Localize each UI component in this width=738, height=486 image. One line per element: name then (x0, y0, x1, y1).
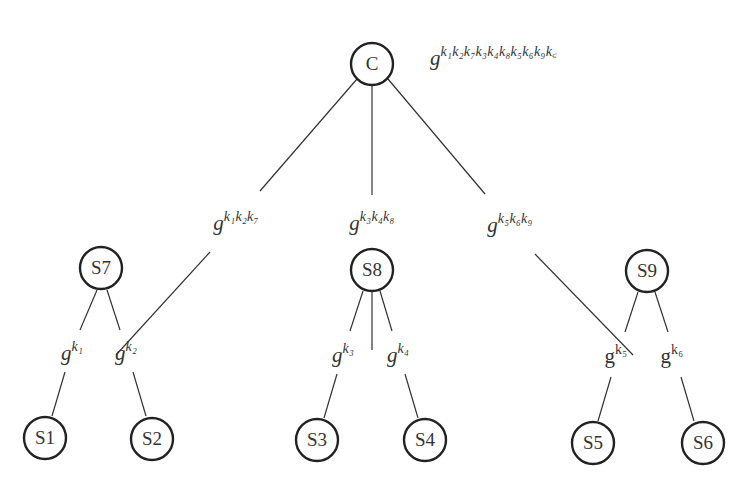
edge-c-s9-upper (388, 79, 485, 194)
edge-label-base: g (115, 341, 126, 365)
group-key-exponent: k₁k₂k₇k₃k₄k₈k₅k₆k₉k꜀ (441, 44, 558, 59)
node-s1-label: S1 (35, 427, 55, 449)
edge-label-exponent: k₁ (71, 339, 83, 354)
edge-s7-s1-lower (52, 372, 65, 416)
edge-label-exponent: k₄ (397, 341, 409, 356)
edge-s9-s5-lower (598, 377, 611, 421)
node-s5-label: S5 (583, 432, 603, 454)
edge-label-c-s7: gk₁k₂k₇ (213, 209, 259, 236)
edge-s9-s6-upper (655, 292, 668, 332)
edge-s8-s4-upper (380, 291, 392, 331)
node-s9-label: S9 (637, 260, 657, 282)
edge-label-base: g (349, 211, 360, 235)
group-key-label: gk₁k₂k₇k₃k₄k₈k₅k₆k₉k꜀ (430, 41, 557, 71)
edge-label-base: g (605, 344, 616, 368)
edge-c-s9-lower (535, 254, 633, 355)
edge-s7-s2-lower (133, 372, 146, 416)
edge-label-c-s8: gk₃k₄k₈ (349, 209, 395, 236)
edge-label-c-s9: gk₅k₆k₉ (487, 211, 533, 238)
edge-label-s8-s4: gk₄ (387, 341, 409, 368)
edge-label-exponent: k₃ (342, 341, 354, 356)
edge-label-s7-s1: gk₁ (61, 339, 83, 366)
edge-s9-s6-lower (681, 377, 694, 421)
node-s7-label: S7 (91, 257, 111, 279)
group-key-base: g (430, 46, 441, 70)
edge-label-exponent: k₂ (125, 339, 137, 354)
node-s6-label: S6 (693, 432, 713, 454)
node-s4-label: S4 (415, 429, 435, 451)
edge-c-s7-upper (260, 79, 357, 191)
edge-label-exponent: k₅k₆k₉ (498, 211, 533, 226)
node-s3-label: S3 (307, 429, 327, 451)
edge-label-base: g (332, 343, 343, 367)
edge-label-s7-s2: gk₂ (115, 339, 137, 366)
edge-label-s9-s6: gk₆ (661, 342, 684, 369)
edge-label-exponent: k₆ (671, 342, 683, 357)
edge-label-s8-s3: gk₃ (332, 341, 354, 368)
edge-s7-s2-upper (107, 290, 120, 330)
edge-s9-s5-upper (625, 292, 638, 332)
edge-label-exponent: k₁k₂k₇ (224, 209, 259, 224)
edge-label-base: g (61, 341, 72, 365)
edge-s8-s3-lower (324, 374, 337, 418)
edge-label-base: g (213, 211, 224, 235)
edge-s8-s3-upper (350, 291, 363, 331)
edge-s8-s4-lower (405, 374, 418, 418)
edge-label-s9-s5: gk₅ (605, 342, 628, 369)
edge-label-base: g (387, 343, 398, 367)
edge-s7-s1-upper (80, 290, 97, 330)
edge-label-exponent: k₅ (615, 342, 627, 357)
edge-label-base: g (487, 213, 498, 237)
edge-label-base: g (661, 344, 672, 368)
edge-label-exponent: k₃k₄k₈ (360, 209, 395, 224)
node-s8-label: S8 (362, 259, 382, 281)
node-c-label: C (366, 53, 379, 75)
node-s2-label: S2 (142, 428, 162, 450)
